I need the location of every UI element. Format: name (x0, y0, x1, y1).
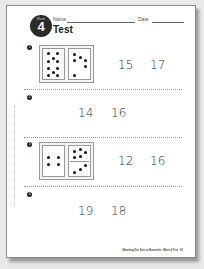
domino-1-left (42, 48, 65, 80)
dot (57, 156, 60, 159)
week-badge-number: 4 (30, 20, 52, 34)
dot (73, 150, 76, 153)
answer-choice[interactable]: 19 (78, 204, 93, 218)
dot (73, 59, 76, 62)
answer-choice[interactable]: 15 (118, 58, 133, 72)
dot (84, 151, 87, 154)
domino-split-line (70, 161, 89, 162)
answer-choice[interactable]: 12 (118, 154, 133, 168)
dot (84, 59, 87, 62)
answer-choice[interactable]: 14 (78, 106, 93, 120)
dot (47, 74, 50, 77)
question-number-3: 3 (27, 142, 32, 147)
divider (24, 186, 182, 187)
divider (24, 137, 182, 138)
dot (79, 168, 82, 171)
name-field[interactable] (67, 22, 135, 23)
dot (56, 60, 59, 63)
question-number-4: 4 (27, 192, 32, 197)
answer-choice[interactable]: 16 (111, 106, 126, 120)
domino-1-right (68, 48, 91, 80)
week-badge: Week 4 (30, 15, 52, 37)
side-margin-text (14, 106, 16, 206)
answer-choice[interactable]: 18 (111, 204, 126, 218)
dot (73, 74, 76, 77)
answer-choice[interactable]: 16 (150, 154, 165, 168)
date-field[interactable] (152, 22, 184, 23)
answer-choice[interactable]: 17 (150, 58, 165, 72)
domino-1 (39, 45, 94, 83)
dot (56, 74, 59, 77)
domino-3 (39, 142, 94, 180)
dot (47, 67, 50, 70)
question-number-2: 2 (27, 95, 32, 100)
page-title: Test (53, 24, 73, 35)
dot (84, 164, 87, 167)
dot (57, 163, 60, 166)
page-number: 81 (180, 249, 183, 252)
dot (47, 52, 50, 55)
date-label: Date (138, 16, 149, 22)
footer-text: Matching Dot Sets to Numerals • Week 4 T… (123, 249, 178, 252)
domino-3-right (68, 145, 91, 177)
dot (73, 53, 76, 56)
domino-3-left (42, 145, 65, 177)
dot (79, 148, 82, 151)
page-footer: Matching Dot Sets to Numerals • Week 4 T… (123, 249, 184, 252)
question-number-1: 1 (27, 45, 32, 50)
dot (47, 163, 50, 166)
dot (84, 65, 87, 68)
divider (24, 89, 182, 90)
dot (73, 156, 76, 159)
dot (56, 52, 59, 55)
dot (47, 156, 50, 159)
dot (79, 56, 82, 59)
dot (52, 57, 55, 60)
worksheet-page: Week 4 Name Date Test 1 15 17 (6, 5, 196, 258)
dot (73, 171, 76, 174)
name-label: Name (53, 16, 66, 22)
dot (52, 71, 55, 74)
dot (47, 60, 50, 63)
dot (79, 155, 82, 158)
dot (56, 67, 59, 70)
